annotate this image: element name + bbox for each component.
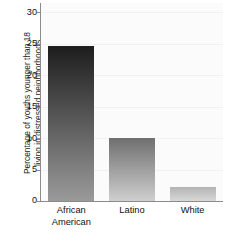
- x-tick-label: White: [162, 205, 223, 217]
- y-tick-mark: [37, 170, 41, 171]
- x-tick-label: Latino: [102, 205, 163, 217]
- x-tick-label-line: Latino: [102, 205, 163, 217]
- y-tick-label: 10: [27, 134, 37, 143]
- bar: [109, 138, 155, 201]
- y-tick-mark: [37, 75, 41, 76]
- gridline: [41, 44, 223, 45]
- y-tick-mark: [37, 107, 41, 108]
- y-tick-label: 20: [27, 71, 37, 80]
- gridline: [41, 12, 223, 13]
- bar: [170, 187, 216, 201]
- y-tick-mark: [37, 201, 41, 202]
- y-tick-mark: [37, 138, 41, 139]
- y-tick-label: 25: [27, 39, 37, 48]
- x-tick-label-line: White: [162, 205, 223, 217]
- x-tick-label-line: American: [41, 217, 102, 229]
- x-tick-label-line: African: [41, 205, 102, 217]
- y-tick-mark: [37, 44, 41, 45]
- y-tick-label: 15: [27, 102, 37, 111]
- bar: [48, 46, 94, 201]
- x-axis-tick-labels: AfricanAmericanLatinoWhite: [41, 205, 223, 245]
- y-axis-tick-labels: 051015202530: [20, 0, 37, 205]
- plot-area: [41, 3, 223, 201]
- bar-chart: Percentage of youths younger than 18 liv…: [0, 0, 225, 247]
- x-axis-line: [40, 201, 223, 202]
- y-tick-label: 30: [27, 8, 37, 17]
- x-tick-label: AfricanAmerican: [41, 205, 102, 228]
- y-tick-mark: [37, 12, 41, 13]
